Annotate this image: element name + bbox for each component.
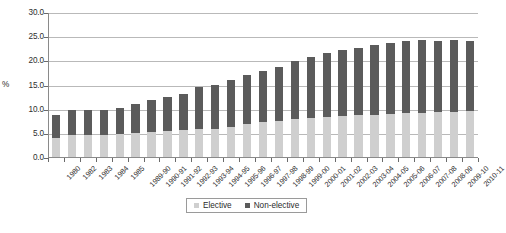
x-axis-tick-label: 1980: [65, 164, 83, 182]
x-axis-tick-mark: [144, 158, 145, 162]
y-axis-tick-labels: 30.025.020.015.010.05.00.0: [0, 13, 44, 158]
y-axis-tick-mark: [44, 110, 48, 111]
x-axis-tick-mark: [128, 158, 129, 162]
x-axis-tick-label: 1982: [81, 164, 99, 182]
x-axis-tick-label: 1984: [112, 164, 130, 182]
x-axis-tick-mark: [159, 158, 160, 162]
y-axis-tick-label: 25.0: [4, 32, 44, 41]
x-axis-tick-mark: [303, 158, 304, 162]
y-axis-tick-label: 0.0: [4, 153, 44, 162]
y-axis-tick-mark: [44, 13, 48, 14]
legend-swatch-elective: [194, 203, 199, 208]
x-axis-tick-mark: [351, 158, 352, 162]
legend-swatch-non-elective: [245, 203, 250, 208]
x-axis-tick-label: 1983: [96, 164, 114, 182]
x-axis-tick-mark: [287, 158, 288, 162]
x-axis-tick-mark: [478, 158, 479, 162]
y-axis-tick-label: 15.0: [4, 81, 44, 90]
x-axis-tick-mark: [446, 158, 447, 162]
legend-item-non-elective: Non-elective: [245, 201, 300, 210]
x-axis-tick-mark: [207, 158, 208, 162]
legend-label-elective: Elective: [203, 201, 232, 210]
x-axis-tick-mark: [239, 158, 240, 162]
x-axis-tick-mark: [398, 158, 399, 162]
chart-legend: Elective Non-elective: [186, 198, 307, 213]
y-axis-tick-label: 30.0: [4, 8, 44, 17]
y-axis-tick-label: 5.0: [4, 129, 44, 138]
plot-area: [48, 13, 478, 158]
x-axis-tick-mark: [96, 158, 97, 162]
plot-frame: [48, 13, 478, 158]
x-axis-tick-mark: [462, 158, 463, 162]
y-axis-tick-mark: [44, 134, 48, 135]
y-axis-tick-mark: [44, 61, 48, 62]
x-axis-tick-mark: [223, 158, 224, 162]
x-axis-tick-mark: [271, 158, 272, 162]
x-axis-tick-mark: [367, 158, 368, 162]
x-axis-tick-mark: [48, 158, 49, 162]
x-axis-tick-mark: [319, 158, 320, 162]
y-axis-tick-label: 20.0: [4, 56, 44, 65]
x-axis-tick-mark: [335, 158, 336, 162]
y-axis-tick-mark: [44, 158, 48, 159]
x-axis-tick-mark: [175, 158, 176, 162]
y-axis-tick-mark: [44, 37, 48, 38]
x-axis-tick-mark: [255, 158, 256, 162]
x-axis-tick-label: 1985: [128, 164, 146, 182]
x-axis-tick-mark: [64, 158, 65, 162]
x-axis-tick-mark: [382, 158, 383, 162]
x-axis-tick-mark: [430, 158, 431, 162]
y-axis-tick-mark: [44, 86, 48, 87]
x-axis-tick-mark: [414, 158, 415, 162]
legend-label-non-elective: Non-elective: [254, 201, 300, 210]
x-axis-tick-mark: [191, 158, 192, 162]
x-axis-tick-mark: [112, 158, 113, 162]
y-axis-tick-label: 10.0: [4, 105, 44, 114]
legend-item-elective: Elective: [194, 201, 232, 210]
x-axis-tick-mark: [80, 158, 81, 162]
